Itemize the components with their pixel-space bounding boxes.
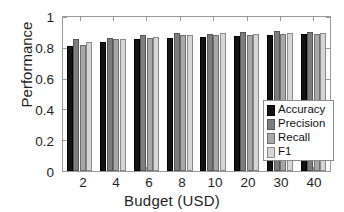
bar-group xyxy=(167,17,193,171)
bar-recall-20 xyxy=(247,35,253,171)
bar-accuracy-6 xyxy=(134,39,140,171)
legend-swatch-icon xyxy=(267,133,275,144)
legend-label: Recall xyxy=(278,132,310,144)
bar-accuracy-4 xyxy=(100,42,106,171)
legend-swatch-icon xyxy=(267,147,275,158)
legend-item-recall: Recall xyxy=(267,131,331,145)
chart-figure: Performance 0 0.2 0.4 0.6 0.8 1 2 4 6 8 … xyxy=(0,0,344,212)
bar-precision-6 xyxy=(140,35,146,171)
bar-accuracy-20 xyxy=(234,36,240,171)
y-tick-mark xyxy=(326,171,330,172)
bar-f1-2 xyxy=(86,42,92,171)
bar-accuracy-2 xyxy=(67,46,73,172)
legend-swatch-icon xyxy=(267,105,275,116)
y-tick-label: 0.8 xyxy=(8,42,54,56)
bar-precision-20 xyxy=(240,32,246,171)
y-tick-mark xyxy=(326,48,330,49)
y-tick-label: 0.6 xyxy=(8,73,54,87)
y-tick-label: 0.2 xyxy=(8,135,54,149)
bar-precision-10 xyxy=(207,34,213,172)
legend-item-f1: F1 xyxy=(267,145,331,159)
bar-f1-10 xyxy=(220,33,226,171)
bar-group xyxy=(67,17,93,171)
legend-item-accuracy: Accuracy xyxy=(267,103,331,117)
y-tick-label: 0 xyxy=(8,166,54,180)
bar-accuracy-8 xyxy=(167,38,173,171)
legend-label: Accuracy xyxy=(278,104,325,116)
bar-recall-8 xyxy=(180,35,186,171)
y-tick-mark xyxy=(326,17,330,18)
bar-recall-2 xyxy=(80,45,86,171)
bar-recall-6 xyxy=(147,38,153,171)
bar-precision-4 xyxy=(107,38,113,171)
bar-recall-4 xyxy=(113,39,119,171)
legend-swatch-icon xyxy=(267,119,275,130)
bar-accuracy-10 xyxy=(200,37,206,171)
bar-f1-8 xyxy=(187,35,193,171)
bar-group xyxy=(200,17,226,171)
legend-item-precision: Precision xyxy=(267,117,331,131)
bar-recall-10 xyxy=(213,35,219,171)
y-tick-mark xyxy=(63,171,67,172)
y-tick-label: 1 xyxy=(8,11,54,25)
x-axis-title: Budget (USD) xyxy=(0,192,344,209)
bar-f1-20 xyxy=(253,34,259,172)
y-tick-mark xyxy=(326,79,330,80)
bar-group xyxy=(100,17,126,171)
bar-f1-6 xyxy=(153,37,159,171)
x-tick-label: 40 xyxy=(294,176,334,190)
bar-group xyxy=(134,17,160,171)
bar-f1-4 xyxy=(120,39,126,171)
y-tick-label: 0.4 xyxy=(8,104,54,118)
legend-label: Precision xyxy=(278,118,325,130)
legend-label: F1 xyxy=(278,146,291,158)
chart-legend: Accuracy Precision Recall F1 xyxy=(263,100,334,161)
bar-precision-2 xyxy=(73,39,79,171)
bar-group xyxy=(234,17,260,171)
bar-precision-8 xyxy=(174,33,180,171)
